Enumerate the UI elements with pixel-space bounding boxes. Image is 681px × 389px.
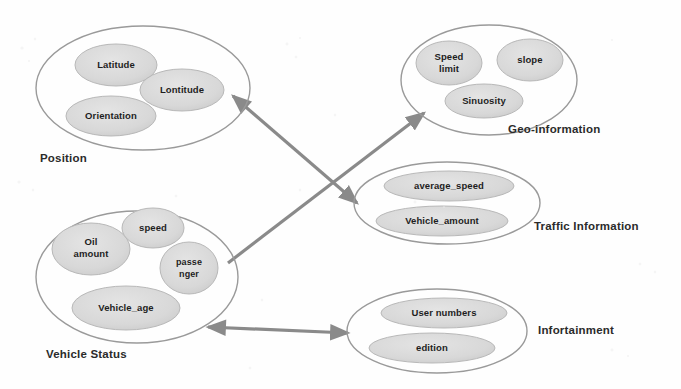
node-speed[interactable]: speed [122, 208, 184, 248]
diagram-canvas: Latitude Lontitude Orientation Speed lim… [0, 0, 681, 389]
cluster-label-geo-information: Geo-information [508, 123, 600, 135]
node-edition[interactable]: edition [369, 333, 495, 363]
node-user-numbers[interactable]: User numbers [381, 298, 507, 328]
node-lontitude-label: Lontitude [160, 84, 204, 95]
cluster-label-traffic-information: Traffic Information [534, 220, 639, 232]
node-user-numbers-label: User numbers [411, 307, 476, 318]
cluster-geo-information[interactable]: Speed limit slope Sinuosity [401, 25, 577, 135]
node-speed-limit[interactable]: Speed limit [416, 41, 482, 85]
node-average-speed[interactable]: average_speed [384, 171, 514, 201]
node-slope-label: slope [517, 54, 542, 65]
node-vehicle-age[interactable]: Vehicle_age [72, 286, 180, 330]
node-latitude-label: Latitude [97, 59, 135, 70]
cluster-position[interactable]: Latitude Lontitude Orientation [36, 26, 250, 150]
node-oil-amount[interactable]: Oil amount [52, 223, 130, 275]
cluster-infortainment[interactable]: User numbers edition [347, 289, 527, 373]
node-average-speed-label: average_speed [414, 180, 484, 191]
connection-vehicle-status-infortainment [208, 327, 348, 333]
node-passenger-label-line1: passe [176, 257, 202, 267]
node-edition-label: edition [416, 342, 448, 353]
node-speed-label: speed [139, 222, 167, 233]
node-speed-limit-label-line1: Speed [434, 51, 463, 62]
node-orientation[interactable]: Orientation [66, 96, 156, 136]
node-speed-limit-label-line2: limit [439, 63, 460, 74]
node-slope[interactable]: slope [497, 39, 563, 81]
cluster-traffic-information[interactable]: average_speed Vehicle_amount [354, 162, 540, 244]
cluster-label-position: Position [40, 152, 87, 164]
cluster-label-infortainment: Infortainment [538, 324, 614, 336]
node-vehicle-amount-label: Vehicle_amount [405, 215, 479, 226]
node-passenger-label-line2: nger [179, 269, 199, 279]
node-orientation-label: Orientation [85, 110, 137, 121]
node-sinuosity-label: Sinuosity [462, 95, 506, 106]
connection-position-traffic [233, 96, 357, 203]
node-sinuosity[interactable]: Sinuosity [445, 84, 523, 118]
node-oil-amount-label-line1: Oil [85, 236, 98, 247]
cluster-vehicle-status[interactable]: Oil amount speed passe nger Vehicle_age [36, 208, 238, 343]
node-vehicle-age-label: Vehicle_age [98, 302, 154, 313]
node-passenger[interactable]: passe nger [160, 242, 218, 294]
node-oil-amount-label-line2: amount [74, 248, 110, 259]
cluster-label-vehicle-status: Vehicle Status [46, 348, 127, 360]
node-vehicle-amount[interactable]: Vehicle_amount [376, 206, 508, 236]
node-lontitude[interactable]: Lontitude [140, 69, 224, 111]
